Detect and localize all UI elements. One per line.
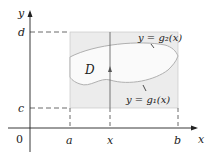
- x-axis-label: x: [198, 133, 205, 146]
- c-label: c: [18, 102, 24, 115]
- d-label: d: [18, 26, 25, 39]
- a-label: a: [66, 134, 73, 147]
- x-tick-label: x: [107, 134, 114, 147]
- region-diagram: y x 0 d c a x b D y = g₂(x) y = g₁(x): [0, 0, 213, 156]
- upper-curve-label: y = g₂(x): [137, 32, 182, 43]
- region-label: D: [84, 63, 95, 77]
- y-axis-label: y: [17, 7, 25, 20]
- lower-curve-label: y = g₁(x): [125, 94, 170, 105]
- x-axis-arrow-icon: [191, 126, 198, 131]
- y-axis-arrow-icon: [28, 10, 33, 17]
- origin-label: 0: [16, 133, 23, 146]
- b-label: b: [174, 134, 181, 147]
